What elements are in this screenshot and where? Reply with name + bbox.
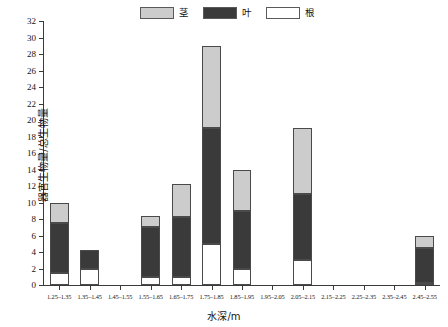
bar-segment[interactable]: [293, 128, 312, 194]
y-tick-label: 2: [32, 264, 37, 274]
x-tick: [394, 285, 395, 290]
x-tick-label: 1.55–1.65: [138, 293, 162, 300]
y-tick-label: 0: [32, 280, 37, 290]
stacked-bar[interactable]: [415, 236, 434, 286]
bar-segment[interactable]: [141, 227, 160, 277]
stacked-bar[interactable]: [50, 203, 69, 285]
y-axis-title-wrap: 器官生物量/总生物量: [0, 70, 18, 240]
bar-segment[interactable]: [80, 250, 99, 268]
y-tick: 2: [39, 269, 44, 270]
x-tick-label: 1.25–1.35: [47, 293, 71, 300]
y-tick: 32: [39, 21, 44, 22]
y-tick-label: 6: [32, 231, 37, 241]
bar-segment[interactable]: [50, 223, 69, 273]
stacked-bar[interactable]: [202, 46, 221, 285]
x-tick-label: 1.95–2.05: [260, 293, 284, 300]
y-tick: 0: [39, 285, 44, 286]
y-tick-label: 30: [27, 33, 36, 43]
x-tick: [151, 285, 152, 290]
y-tick-label: 28: [27, 49, 36, 59]
bar-segment[interactable]: [293, 194, 312, 260]
x-tick: [425, 285, 426, 290]
y-tick-label: 32: [27, 16, 36, 26]
y-tick: 30: [39, 38, 44, 39]
x-axis-title: 水深/m: [0, 308, 448, 323]
bar-segment[interactable]: [233, 269, 252, 286]
legend-swatch-root: [266, 7, 300, 19]
bar-segment[interactable]: [50, 273, 69, 285]
x-tick: [242, 285, 243, 290]
stacked-bar[interactable]: [80, 250, 99, 285]
x-tick-label: 1.35–1.45: [78, 293, 102, 300]
x-tick-label: 1.75–1.85: [199, 293, 223, 300]
legend-item-root: 根: [266, 7, 315, 19]
stacked-bar[interactable]: [233, 170, 252, 286]
y-tick: 10: [39, 203, 44, 204]
x-tick: [333, 285, 334, 290]
x-tick-label: 1.85–1.95: [230, 293, 254, 300]
y-tick-label: 26: [27, 66, 36, 76]
y-tick-label: 24: [27, 82, 36, 92]
bar-segment[interactable]: [141, 216, 160, 228]
bar-segment[interactable]: [172, 184, 191, 217]
bar-segment[interactable]: [141, 277, 160, 285]
bar-segment[interactable]: [80, 269, 99, 286]
legend-item-stem: 茎: [140, 7, 189, 19]
y-tick: 28: [39, 54, 44, 55]
y-tick: 8: [39, 219, 44, 220]
legend-label-leaf: 叶: [242, 7, 252, 19]
x-tick-label: 2.45–2.55: [413, 293, 437, 300]
y-tick: 6: [39, 236, 44, 237]
x-tick-label: 2.05–2.15: [291, 293, 315, 300]
bar-segment[interactable]: [233, 170, 252, 211]
x-tick: [90, 285, 91, 290]
bar-segment[interactable]: [415, 248, 434, 283]
legend-swatch-stem: [140, 7, 174, 19]
x-tick-label: 2.35–2.45: [382, 293, 406, 300]
y-tick-label: 4: [32, 247, 37, 257]
y-tick: 26: [39, 71, 44, 72]
x-tick: [364, 285, 365, 290]
y-tick: 22: [39, 104, 44, 105]
bar-segment[interactable]: [172, 277, 191, 285]
x-tick: [181, 285, 182, 290]
x-tick: [59, 285, 60, 290]
x-tick-label: 1.65–1.75: [169, 293, 193, 300]
bar-segment[interactable]: [233, 211, 252, 269]
stacked-bar[interactable]: [293, 128, 312, 285]
y-tick-label: 8: [32, 214, 37, 224]
legend-label-stem: 茎: [179, 7, 189, 19]
legend-label-root: 根: [305, 7, 315, 19]
plot-area: 02468101214161820222426283032 1.25–1.351…: [44, 21, 440, 285]
bar-segment[interactable]: [202, 244, 221, 285]
x-tick: [272, 285, 273, 290]
stacked-bar[interactable]: [141, 216, 160, 285]
bar-segment[interactable]: [293, 260, 312, 285]
y-axis-title: 器官生物量/总生物量: [35, 108, 50, 201]
y-tick: 24: [39, 87, 44, 88]
legend-item-leaf: 叶: [203, 7, 252, 19]
bar-segment[interactable]: [202, 128, 221, 244]
bar-chart-figure: 茎 叶 根 02468101214161820222426283032 1.25…: [0, 0, 448, 327]
y-tick-label: 22: [27, 99, 36, 109]
legend-swatch-leaf: [203, 7, 237, 19]
bar-segment[interactable]: [50, 203, 69, 223]
x-tick: [120, 285, 121, 290]
x-tick: [303, 285, 304, 290]
bar-segment[interactable]: [415, 236, 434, 248]
bar-segment[interactable]: [202, 46, 221, 129]
y-tick: 4: [39, 252, 44, 253]
x-tick-label: 2.15–2.25: [321, 293, 345, 300]
chart-legend: 茎 叶 根: [140, 5, 315, 21]
x-tick: [212, 285, 213, 290]
stacked-bar[interactable]: [172, 184, 191, 285]
bar-segment[interactable]: [172, 217, 191, 276]
x-tick-label: 2.25–2.35: [352, 293, 376, 300]
x-tick-label: 1.45–1.55: [108, 293, 132, 300]
